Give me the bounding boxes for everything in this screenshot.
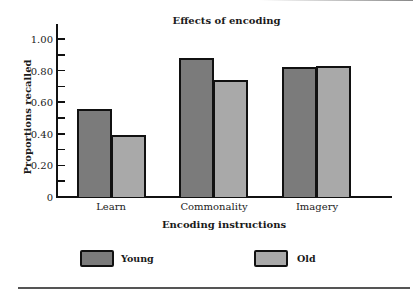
bar-imagery-young [282,67,317,197]
y-tick [58,38,65,40]
legend-label-old: Old [297,253,316,264]
y-tick [58,70,65,72]
category-label-commonality: Commonality [180,201,247,212]
y-tick [58,54,65,56]
y-tick [58,149,65,151]
legend-label-young: Young [121,253,154,264]
y-tick-label: 0.80 [18,65,53,76]
x-axis-label: Encoding instructions [162,219,286,230]
top-rule [260,0,413,1]
bar-learn-old [111,135,146,197]
y-tick-label: 0 [18,192,53,203]
bottom-rule [18,287,410,289]
y-tick [58,117,65,119]
bar-commonality-young [179,58,214,197]
y-tick [58,165,65,167]
y-tick [58,196,65,198]
y-tick [58,180,65,182]
legend-swatch-young [80,250,114,267]
y-tick [58,133,65,135]
bar-learn-young [77,109,112,197]
y-tick [58,86,65,88]
category-label-imagery: Imagery [296,201,338,212]
y-tick [58,101,65,103]
y-tick-label: 0.20 [18,160,53,171]
category-label-learn: Learn [96,201,126,212]
y-tick-label: 1.00 [18,34,53,45]
y-axis-label: Proportions recalled [22,59,33,174]
bar-commonality-old [213,80,248,197]
y-axis [56,24,58,198]
chart-title: Effects of encoding [0,15,413,26]
y-tick-label: 0.60 [18,97,53,108]
legend-swatch-old [254,250,288,267]
y-tick-label: 0.40 [18,128,53,139]
bar-imagery-old [316,66,351,197]
